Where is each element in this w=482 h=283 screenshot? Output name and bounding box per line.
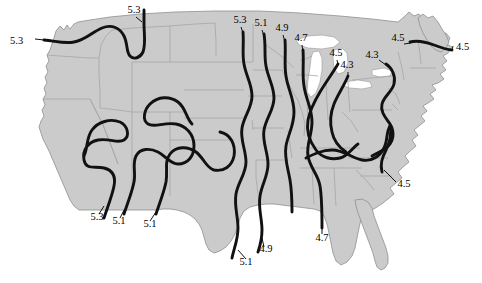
florida-peninsula [355, 199, 388, 270]
contour-label-l11: 4.5 [456, 41, 469, 52]
leader-l01 [35, 39, 44, 40]
contour-label-l06: 4.7 [294, 32, 307, 43]
contour-label-l15: 5.1 [239, 256, 252, 267]
contour-label-l09: 4.3 [365, 49, 378, 60]
us-contour-map-svg: 5.3 5.3 5.3 5.1 4.9 4.7 4.5 4.3 4.3 4.5 … [0, 0, 482, 283]
contour-label-l01: 5.3 [10, 35, 23, 46]
contour-map-figure: 5.3 5.3 5.3 5.1 4.9 4.7 4.5 4.3 4.3 4.5 … [0, 0, 482, 283]
contour-label-l03: 5.3 [233, 14, 246, 25]
contour-label-l02: 5.3 [127, 4, 140, 15]
contour-label-l10: 4.5 [391, 32, 404, 43]
contour-label-l14: 4.9 [259, 243, 272, 254]
contour-label-l12: 4.5 [397, 178, 410, 189]
contour-label-l17: 5.1 [112, 215, 125, 226]
contour-label-l04: 5.1 [254, 17, 267, 28]
contour-label-l08: 4.3 [340, 59, 353, 70]
contour-label-l05: 4.9 [275, 22, 288, 33]
contour-label-l16: 5.1 [143, 218, 156, 229]
contour-label-l13: 4.7 [315, 232, 328, 243]
contour-label-l07: 4.5 [329, 47, 342, 58]
contour-label-l18: 5.3 [90, 211, 103, 222]
